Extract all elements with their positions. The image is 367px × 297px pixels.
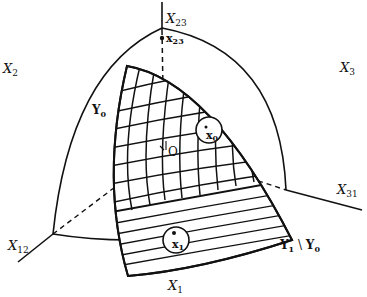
label-axis-x31: X31 bbox=[336, 182, 358, 199]
label-region-y0: Y0 bbox=[91, 103, 107, 119]
region-y1 bbox=[100, 60, 300, 276]
label-point-x23: x23 bbox=[166, 32, 184, 46]
label-axis-x23: X23 bbox=[165, 11, 187, 28]
label-axis-x3: X3 bbox=[339, 60, 355, 77]
label-origin: O bbox=[168, 145, 178, 159]
label-axis-x12: X12 bbox=[7, 238, 29, 255]
label-axis-x2: X2 bbox=[2, 61, 18, 78]
label-axis-x1: X1 bbox=[167, 278, 183, 295]
label-region-y1-minus-y0: Y1 \ Y0 bbox=[279, 238, 320, 254]
point-x23-dot bbox=[160, 36, 164, 40]
spherical-octant-diagram: X23 x23 X2 X3 Y0 x0 O X31 X12 x1 Y1 \ Y0… bbox=[0, 0, 367, 297]
